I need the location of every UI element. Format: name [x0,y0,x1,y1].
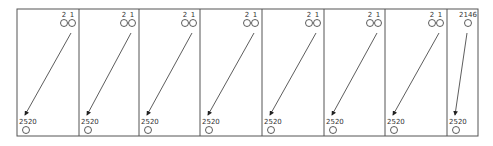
top-node-label: 1 [315,11,319,19]
node-circle [85,127,92,134]
top-node-label: 2 [368,11,372,19]
node-circle [244,20,251,27]
node-circle [61,20,68,27]
message-arrow [455,33,467,115]
message-arrow [25,33,71,115]
diagram-panel: 212520 [19,11,76,134]
bottom-node-label: 2520 [326,118,344,126]
node-circle [252,20,259,27]
node-circle [391,127,398,134]
diagram-panel: 212520 [324,9,382,136]
node-circle [206,127,213,134]
node-circle [190,20,197,27]
top-node-label: 2 [245,11,249,19]
message-arrow [87,33,131,115]
node-circle [182,20,189,27]
node-circle [375,20,382,27]
top-node-label: 2 [122,11,126,19]
diagram-panel: 21462520 [447,9,477,136]
node-circle [367,20,374,27]
node-circle [429,20,436,27]
bottom-node-label: 2520 [449,118,467,126]
bottom-node-label: 2520 [141,118,159,126]
diagram-panel: 212520 [200,9,259,136]
node-circle [145,127,152,134]
top-node-label: 1 [130,11,134,19]
top-node-label: 2146 [459,11,477,19]
diagram-panel: 212520 [385,9,444,136]
message-arrow [393,33,439,115]
top-node-label: 1 [70,11,74,19]
node-circle [330,127,337,134]
node-circle [69,20,76,27]
node-circle [129,20,136,27]
top-node-label: 2 [307,11,311,19]
message-arrow [270,33,316,115]
node-circle [453,127,460,134]
diagram-panel: 212520 [139,9,197,136]
node-circle [314,20,321,27]
top-node-label: 2 [62,11,66,19]
diagram-panel: 212520 [262,9,321,136]
top-node-label: 1 [438,11,442,19]
top-node-label: 1 [191,11,195,19]
top-node-label: 2 [183,11,187,19]
node-circle [437,20,444,27]
bottom-node-label: 2520 [19,118,37,126]
bottom-node-label: 2520 [387,118,405,126]
node-circle [268,127,275,134]
message-arrow [147,33,192,115]
message-arrow [208,33,254,115]
bottom-node-label: 2520 [202,118,220,126]
node-circle [121,20,128,27]
top-node-label: 1 [376,11,380,19]
node-circle [465,20,472,27]
bottom-node-label: 2520 [81,118,99,126]
node-circle [23,127,30,134]
message-arrow [332,33,377,115]
sequence-diagram: 2125202125202125202125202125202125202125… [0,0,493,146]
node-circle [306,20,313,27]
bottom-node-label: 2520 [264,118,282,126]
top-node-label: 2 [430,11,434,19]
diagram-frame [17,9,478,136]
diagram-panel: 212520 [79,9,136,136]
top-node-label: 1 [253,11,257,19]
